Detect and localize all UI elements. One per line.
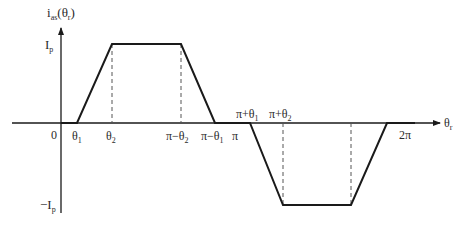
level-label-positive: Ip — [45, 37, 53, 54]
tick-label-pi-minus-theta1: π−θ1 — [201, 129, 224, 145]
y-axis-label: ias(θr) — [47, 5, 75, 22]
origin-label: 0 — [51, 128, 57, 142]
tick-label-theta2: θ2 — [106, 129, 116, 145]
tick-label-pi-plus-theta1: π+θ1 — [236, 107, 259, 123]
current-waveform — [61, 44, 415, 205]
tick-label-pi: π — [232, 129, 238, 143]
level-label-negative: −Ip — [40, 197, 56, 214]
trapezoidal-current-diagram: ias(θr) Ip −Ip 0 θ1 θ2 π−θ2 π−θ1 π π+θ1 … — [0, 0, 462, 229]
tick-label-2pi: 2π — [399, 128, 411, 142]
tick-label-theta1: θ1 — [72, 129, 82, 145]
tick-label-pi-minus-theta2: π−θ2 — [166, 129, 189, 145]
x-axis-label: θr — [444, 116, 453, 132]
tick-label-pi-plus-theta2: π+θ2 — [269, 107, 292, 123]
